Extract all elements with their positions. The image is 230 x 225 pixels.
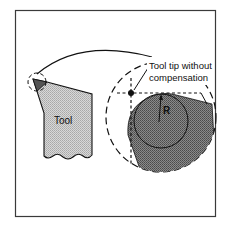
theoretical-tip-point [128, 90, 134, 96]
tool-tip-label-line2: compensation [149, 72, 208, 83]
tool-label: Tool [54, 115, 72, 126]
radius-label: R [163, 105, 171, 116]
diagram-canvas: Tool R Tool tip without compensation [0, 0, 230, 225]
tool-tip-label-line1: Tool tip without [149, 60, 212, 71]
